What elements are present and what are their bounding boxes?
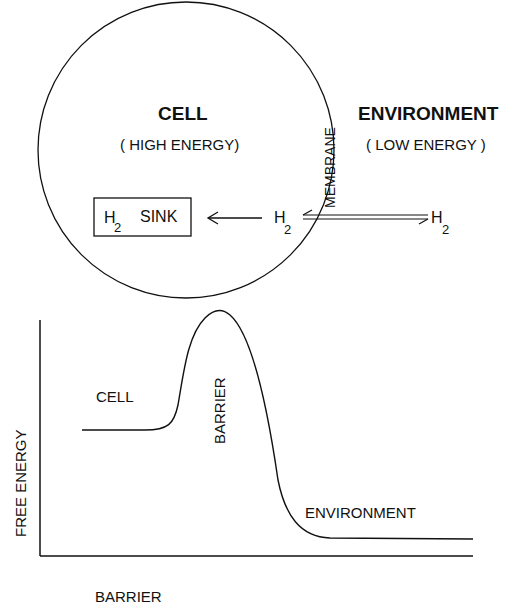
h2-outside-subscript: 2 — [442, 222, 449, 237]
cell-title: CELL — [158, 103, 208, 124]
diagram-svg: CELL ( HIGH ENERGY) ENVIRONMENT ( LOW EN… — [0, 0, 515, 614]
cell-subtitle: ( HIGH ENERGY) — [120, 136, 239, 153]
h2-outside-text: H — [431, 209, 443, 226]
environment-title: ENVIRONMENT — [358, 103, 499, 124]
environment-subtitle: ( LOW ENERGY ) — [366, 136, 486, 153]
half-arrowhead-left-icon — [303, 210, 312, 215]
plot-environment-label: ENVIRONMENT — [305, 504, 416, 521]
plot-barrier-label: BARRIER — [211, 377, 228, 444]
half-arrowhead-right-icon — [419, 219, 428, 224]
y-axis-label: FREE ENERGY — [12, 429, 29, 537]
x-axis-label: BARRIER — [95, 588, 162, 605]
sink-subscript: 2 — [114, 220, 121, 235]
plot-cell-label: CELL — [96, 388, 134, 405]
membrane-label: MEMBRANE — [322, 127, 338, 208]
h2-inside-subscript: 2 — [284, 222, 291, 237]
sink-label: SINK — [140, 208, 178, 225]
diagram-canvas: CELL ( HIGH ENERGY) ENVIRONMENT ( LOW EN… — [0, 0, 515, 614]
